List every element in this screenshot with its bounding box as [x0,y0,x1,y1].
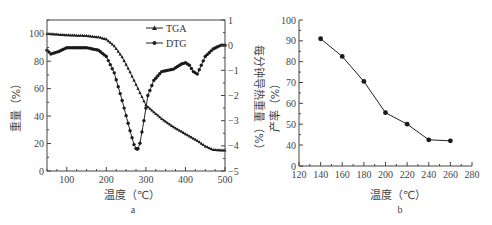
chart-a-caption: a [131,204,136,215]
x-tick-label: 100 [59,174,74,185]
dtg-marker [128,129,131,132]
dtg-marker [118,92,121,95]
dtg-marker [150,84,153,87]
y-tick-label: 100 [29,28,44,39]
x-tick-label: 180 [356,169,371,180]
yield-marker [318,36,323,41]
series-yield-line [321,39,451,141]
dtg-marker [198,68,201,71]
y2-tick-label: 1 [228,15,233,26]
dtg-marker [142,119,145,122]
y-tick-label: 60 [34,83,44,94]
chart-a-axes: 10020030040050002040608010010−1−2−3−4−5 [29,15,239,186]
x-tick-label: 400 [178,174,193,185]
dtg-marker [113,71,116,74]
x-tick-label: 220 [400,169,415,180]
yield-marker [405,122,410,127]
y-tick-label: 50 [286,119,296,130]
dtg-marker [132,143,135,146]
x-tick-label: 200 [378,169,393,180]
yield-marker [361,79,366,84]
x-tick-label: 280 [465,169,480,180]
dtg-marker [122,106,125,109]
chart-a-plot-area [45,32,226,152]
y-tick-label: 20 [34,138,44,149]
y-tick-label: 40 [286,140,296,151]
dtg-marker [109,63,112,66]
x-tick-label: 260 [443,169,458,180]
y-tick-label: 0 [39,166,44,177]
dtg-marker [138,142,141,145]
chart-a-tga-dtg: 10020030040050002040608010010−1−2−3−4−5 … [0,0,492,225]
dtg-marker [146,94,149,97]
chart-b-x-axis-title: 温度（℃） [370,188,426,202]
series-dtg-line [47,45,225,151]
chart-a-legend: TGA DTG [146,23,187,49]
y2-tick-label: −3 [228,115,239,126]
y2-tick-label: −4 [228,140,239,151]
chart-b-caption: b [398,204,403,215]
yield-marker [340,54,345,59]
y-tick-label: 80 [34,56,44,67]
dtg-marker [148,89,151,92]
x-tick-label: 160 [335,169,350,180]
yield-marker [383,110,388,115]
dtg-marker [126,121,129,124]
x-tick-label: 300 [138,174,153,185]
legend-dtg-label: DTG [166,38,187,49]
dtg-marker [190,67,193,70]
x-tick-label: 200 [99,174,114,185]
chart-a-y2-axis-title: 每分钟导热重量（%） [252,45,266,154]
yield-marker [426,137,431,142]
dtg-marker [111,67,114,70]
dtg-marker [130,136,133,139]
y-tick-label: 100 [281,15,296,26]
y-tick-label: 70 [286,77,296,88]
x-tick-label: 240 [421,169,436,180]
chart-b-axes: 1201401601802002202402602800405060708090… [281,15,480,181]
dtg-marker [105,55,108,58]
dtg-marker [107,59,110,62]
y-tick-label: 80 [286,56,296,67]
y-tick-label: 90 [286,35,296,46]
circle-marker-icon [153,41,157,45]
dtg-marker [188,64,191,67]
dtg-marker [140,130,143,133]
dtg-marker [196,72,199,75]
yield-marker [448,138,453,143]
series-tga-line [47,34,225,151]
y2-tick-label: 0 [228,40,233,51]
dtg-marker [117,85,120,88]
y2-tick-label: −5 [228,166,239,177]
dtg-marker [200,64,203,67]
chart-a-y-axis-title: 重量（%） [9,78,23,132]
y2-tick-label: −1 [228,65,239,76]
chart-b-plot-area [318,36,453,143]
x-tick-label: 140 [313,169,328,180]
y-tick-label: 0 [291,161,296,172]
dtg-marker [115,78,118,81]
y2-tick-label: −2 [228,90,239,101]
chart-b-y-axis-title: 产率（%） [268,78,282,132]
dtg-marker [136,147,139,150]
dtg-marker [120,99,123,102]
chart-a-x-axis-title: 温度（℃） [104,188,160,202]
y-tick-label: 40 [34,111,44,122]
dtg-marker [124,114,127,117]
y-tick-label: 60 [286,98,296,109]
dtg-marker [144,106,147,109]
dtg-marker [202,59,205,62]
legend-tga-label: TGA [166,23,187,34]
